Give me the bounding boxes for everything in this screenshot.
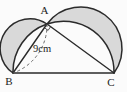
- label-measurement-9cm: 9cm: [33, 43, 51, 54]
- right-lune-shaded-region: [47, 7, 122, 73]
- label-vertex-c: C: [107, 76, 114, 88]
- label-vertex-a: A: [41, 4, 49, 16]
- label-vertex-b: B: [5, 75, 12, 87]
- lunes-diagram-svg: A B C 9cm: [0, 0, 127, 92]
- geometry-figure: A B C 9cm: [0, 0, 127, 92]
